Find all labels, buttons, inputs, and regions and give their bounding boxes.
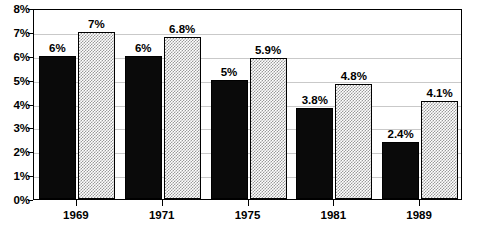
x-axis-category-label: 1969	[63, 209, 89, 221]
bar-value-label: 7%	[88, 19, 105, 31]
bar-series-a-1981	[296, 108, 333, 199]
y-axis-tick-label: 3%	[0, 122, 30, 134]
bar-series-b-1981	[335, 84, 372, 199]
y-axis: 0%1%2%3%4%5%6%7%8%	[0, 0, 30, 232]
y-axis-tick-label: 4%	[0, 99, 30, 111]
bar-value-label: 5.9%	[255, 45, 281, 57]
y-axis-tick-mark	[28, 81, 33, 82]
bar-value-label: 3.8%	[302, 95, 328, 107]
bar-value-label: 6%	[135, 43, 152, 55]
y-axis-tick-mark	[28, 9, 33, 10]
x-axis-tick-mark	[419, 200, 420, 206]
bar-value-label: 4.1%	[426, 88, 452, 100]
y-axis-tick-label: 7%	[0, 27, 30, 39]
y-axis-tick-label: 5%	[0, 75, 30, 87]
y-axis-tick-mark	[28, 152, 33, 153]
bar-series-a-1975	[211, 80, 248, 199]
y-axis-tick-mark	[28, 176, 33, 177]
y-axis-tick-label: 6%	[0, 51, 30, 63]
x-axis-tick-mark	[333, 200, 334, 206]
x-axis-category-label: 1975	[235, 209, 261, 221]
x-axis-tick-mark	[248, 200, 249, 206]
bar-value-label: 6.8%	[169, 24, 195, 36]
bar-series-a-1989	[382, 142, 419, 199]
bar-series-b-1975	[250, 58, 287, 199]
bar-series-b-1971	[164, 37, 201, 199]
y-axis-tick-label: 1%	[0, 170, 30, 182]
x-axis-tick-mark	[76, 200, 77, 206]
x-axis-category-label: 1989	[406, 209, 432, 221]
y-axis-tick-mark	[28, 57, 33, 58]
y-axis-tick-label: 0%	[0, 194, 30, 206]
y-axis-tick-mark	[28, 200, 33, 201]
x-axis-tick-mark	[162, 200, 163, 206]
bar-value-label: 4.8%	[341, 71, 367, 83]
bar-value-label: 5%	[221, 67, 238, 79]
bar-chart: 0%1%2%3%4%5%6%7%8% 6%7%6%6.8%5%5.9%3.8%4…	[0, 0, 477, 232]
y-axis-tick-label: 8%	[0, 3, 30, 15]
bar-series-a-1969	[39, 56, 76, 199]
y-axis-tick-mark	[28, 33, 33, 34]
bar-series-b-1989	[421, 101, 458, 199]
bar-value-label: 6%	[49, 43, 66, 55]
x-axis-category-label: 1971	[149, 209, 175, 221]
bar-series-a-1971	[125, 56, 162, 199]
bars-layer: 6%7%6%6.8%5%5.9%3.8%4.8%2.4%4.1%	[34, 10, 461, 199]
bar-value-label: 2.4%	[387, 129, 413, 141]
y-axis-tick-mark	[28, 128, 33, 129]
x-axis-category-label: 1981	[321, 209, 347, 221]
y-axis-tick-mark	[28, 105, 33, 106]
bar-series-b-1969	[78, 32, 115, 199]
plot-area: 6%7%6%6.8%5%5.9%3.8%4.8%2.4%4.1%	[33, 9, 462, 200]
y-axis-tick-label: 2%	[0, 146, 30, 158]
